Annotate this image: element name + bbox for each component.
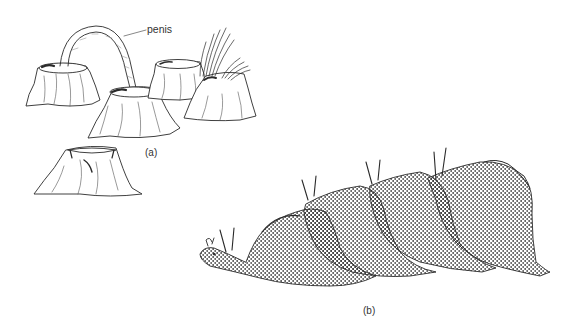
- penis-label: penis: [147, 24, 172, 35]
- panel-a-label: (a): [145, 148, 157, 158]
- figure: penis (a) (b): [0, 0, 574, 328]
- panel-b-illustration: [0, 0, 574, 328]
- panel-b-label: (b): [363, 306, 375, 316]
